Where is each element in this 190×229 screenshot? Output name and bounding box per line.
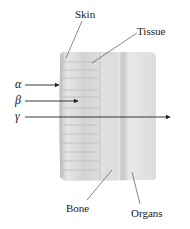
- bone-column: [100, 53, 114, 180]
- gamma-symbol: γ: [15, 110, 20, 122]
- tissue-block: [60, 52, 156, 181]
- organs-label: Organs: [131, 208, 163, 219]
- bone-label: Bone: [66, 203, 89, 214]
- skin-edge: [61, 54, 63, 178]
- tissue-label: Tissue: [137, 26, 165, 37]
- beta-symbol: β: [15, 94, 21, 106]
- skin-label: Skin: [75, 9, 95, 20]
- alpha-symbol: α: [15, 78, 21, 90]
- radiation-penetration-diagram: Skin Tissue Bone Organs α β γ: [0, 0, 190, 229]
